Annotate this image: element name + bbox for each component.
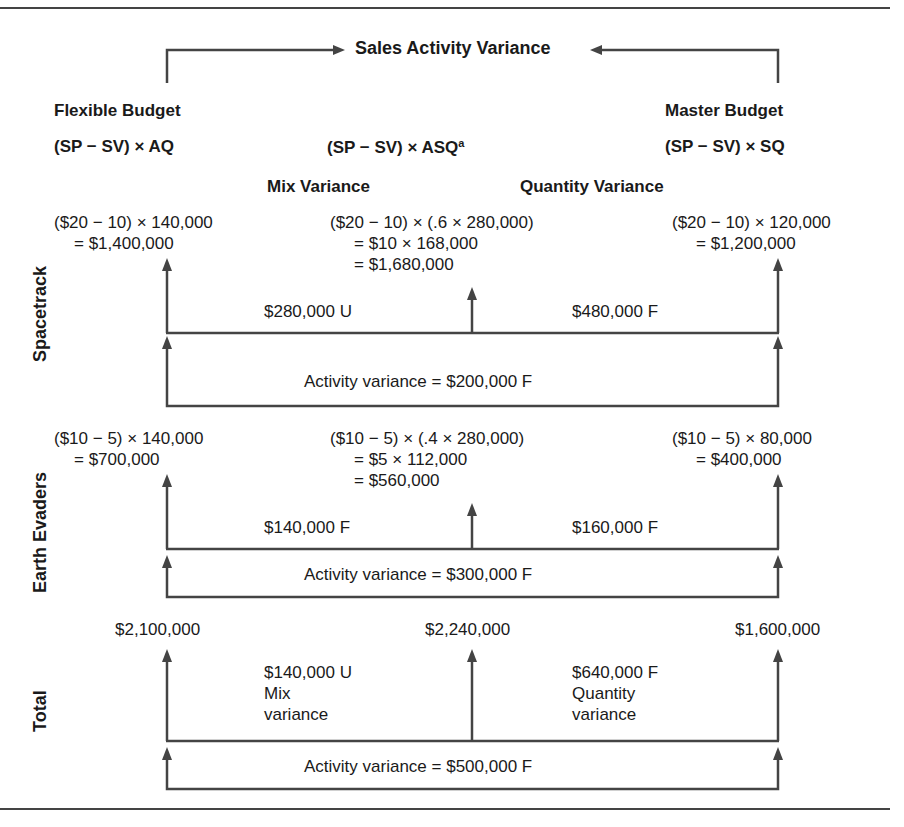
spacetrack-quantity-variance: $480,000 F (572, 302, 658, 322)
footnote-mark: a (458, 137, 464, 149)
master-budget-formula: (SP − SV) × SQ (665, 137, 785, 157)
calc-line: = $1,400,000 (54, 233, 213, 254)
calc-line: = $10 × 168,000 (330, 233, 534, 254)
calc-line: ($10 − 5) × (.4 × 280,000) (330, 428, 524, 449)
earth-evaders-quantity-variance: $160,000 F (572, 518, 658, 538)
calc-line: = $700,000 (54, 449, 203, 470)
spacetrack-asq-calc: ($20 − 10) × (.6 × 280,000) = $10 × 168,… (330, 212, 534, 275)
calc-line: = $560,000 (330, 470, 524, 491)
total-master-budget: $1,600,000 (735, 620, 820, 640)
flexible-budget-formula: (SP − SV) × AQ (54, 137, 174, 157)
total-asq: $2,240,000 (425, 620, 510, 640)
earth-evaders-activity-variance: Activity variance = $300,000 F (304, 565, 532, 585)
variance-note: Quantity (572, 683, 658, 704)
calc-line: ($20 − 10) × (.6 × 280,000) (330, 212, 534, 233)
calc-line: ($10 − 5) × 140,000 (54, 428, 203, 449)
total-quantity-variance: $640,000 F Quantity variance (572, 662, 658, 725)
master-budget-heading: Master Budget (665, 101, 783, 121)
row-label-total: Total (30, 690, 51, 732)
earth-evaders-flexible-calc: ($10 − 5) × 140,000 = $700,000 (54, 428, 203, 470)
spacetrack-activity-variance: Activity variance = $200,000 F (304, 372, 532, 392)
calc-line: ($20 − 10) × 120,000 (672, 212, 831, 233)
mix-variance-heading: Mix Variance (267, 177, 370, 197)
row-label-spacetrack: Spacetrack (30, 266, 51, 362)
calc-line: ($20 − 10) × 140,000 (54, 212, 213, 233)
earth-evaders-asq-calc: ($10 − 5) × (.4 × 280,000) = $5 × 112,00… (330, 428, 524, 491)
spacetrack-mix-variance: $280,000 U (264, 302, 352, 322)
flexible-budget-heading: Flexible Budget (54, 101, 181, 121)
variance-amount: $140,000 U (264, 662, 352, 683)
asq-formula-text: (SP − SV) × ASQ (327, 138, 458, 157)
spacetrack-flexible-calc: ($20 − 10) × 140,000 = $1,400,000 (54, 212, 213, 254)
calc-line: = $400,000 (672, 449, 812, 470)
earth-evaders-master-calc: ($10 − 5) × 80,000 = $400,000 (672, 428, 812, 470)
diagram-lines (0, 0, 904, 827)
asq-formula: (SP − SV) × ASQa (327, 137, 464, 158)
variance-note: variance (572, 704, 658, 725)
spacetrack-master-calc: ($20 − 10) × 120,000 = $1,200,000 (672, 212, 831, 254)
earth-evaders-mix-variance: $140,000 F (264, 518, 350, 538)
calc-line: ($10 − 5) × 80,000 (672, 428, 812, 449)
calc-line: = $1,200,000 (672, 233, 831, 254)
variance-note: variance (264, 704, 352, 725)
total-mix-variance: $140,000 U Mix variance (264, 662, 352, 725)
diagram-title: Sales Activity Variance (355, 38, 550, 59)
variance-amount: $640,000 F (572, 662, 658, 683)
variance-note: Mix (264, 683, 352, 704)
total-activity-variance: Activity variance = $500,000 F (304, 757, 532, 777)
total-flexible-budget: $2,100,000 (115, 620, 200, 640)
calc-line: = $1,680,000 (330, 254, 534, 275)
calc-line: = $5 × 112,000 (330, 449, 524, 470)
quantity-variance-heading: Quantity Variance (520, 177, 664, 197)
row-label-earth-evaders: Earth Evaders (30, 472, 51, 593)
